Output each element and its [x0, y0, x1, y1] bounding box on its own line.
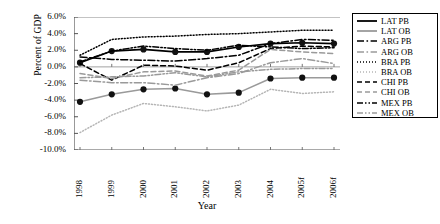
y-tick-label: -6.0% [0, 111, 66, 121]
x-tick-label: 2001 [169, 180, 183, 198]
x-tick-label: 2003 [233, 180, 247, 198]
plot-area [74, 17, 340, 150]
legend-item-mex-ob[interactable]: MEX OB [356, 108, 435, 118]
y-tick-label: 0.0% [0, 61, 66, 71]
legend-swatch [356, 108, 378, 118]
legend-item-chi-ob[interactable]: CHI OB [356, 87, 435, 97]
x-tick-label: 2006f [328, 177, 342, 198]
legend-swatch [356, 36, 378, 46]
legend-label: ARG PB [381, 36, 411, 46]
legend: LAT PBLAT OBARG PBARG OBBRA PBBRA OBCHI … [352, 13, 438, 118]
y-tick-label: 6.0% [0, 11, 66, 21]
y-tick-label: 2.0% [0, 44, 66, 54]
legend-swatch [356, 87, 378, 97]
x-tick-label: 1999 [106, 180, 120, 198]
legend-item-arg-ob[interactable]: ARG OB [356, 47, 435, 57]
y-tick-label: -10.0% [0, 144, 66, 154]
x-tick-label: 2004 [265, 180, 279, 198]
legend-item-mex-pb[interactable]: MEX PB [356, 98, 435, 108]
y-tick-label: -8.0% [0, 127, 66, 137]
y-tick-label: 4.0% [0, 28, 66, 38]
legend-item-lat-pb[interactable]: LAT PB [356, 16, 435, 26]
legend-item-chi-pb[interactable]: CHI PB [356, 77, 435, 87]
series-canvas [74, 17, 340, 150]
x-tick-label: 2000 [138, 180, 152, 198]
legend-item-bra-ob[interactable]: BRA OB [356, 67, 435, 77]
x-tick-label: 2002 [201, 180, 215, 198]
legend-label: LAT PB [381, 16, 409, 26]
legend-label: BRA PB [381, 57, 411, 67]
x-tick-label: 1998 [74, 180, 88, 198]
legend-label: CHI OB [381, 87, 410, 97]
legend-label: ARG OB [381, 47, 413, 57]
chart-figure: Percent of GDP Year 6.0%4.0%2.0%0.0%-2.0… [0, 0, 440, 224]
legend-swatch [356, 26, 378, 36]
legend-swatch [356, 47, 378, 57]
y-tick-label: -2.0% [0, 78, 66, 88]
legend-swatch [356, 98, 378, 108]
x-tick-label: 2005f [296, 177, 310, 198]
y-axis-tick-labels: 6.0%4.0%2.0%0.0%-2.0%-4.0%-6.0%-8.0%-10.… [0, 0, 74, 224]
series-mex-ob [80, 69, 334, 78]
legend-label: LAT OB [381, 26, 410, 36]
legend-label: MEX OB [381, 108, 414, 118]
legend-label: CHI PB [381, 77, 408, 87]
y-tick-label: -4.0% [0, 94, 66, 104]
axis-frame [74, 17, 340, 150]
legend-item-bra-pb[interactable]: BRA PB [356, 57, 435, 67]
legend-swatch [356, 16, 378, 26]
legend-swatch [356, 67, 378, 77]
legend-item-arg-pb[interactable]: ARG PB [356, 36, 435, 46]
series-lat-pb [77, 40, 337, 66]
series-arg-ob [80, 59, 334, 86]
x-axis-tick-labels: 19981999200020012002200320042005f2006f [74, 152, 340, 198]
legend-label: MEX PB [381, 98, 412, 108]
legend-swatch [356, 77, 378, 87]
legend-label: BRA OB [381, 67, 412, 77]
legend-item-lat-ob[interactable]: LAT OB [356, 26, 435, 36]
series-lat-ob [77, 75, 337, 105]
legend-swatch [356, 57, 378, 67]
x-axis-title: Year [74, 200, 340, 211]
